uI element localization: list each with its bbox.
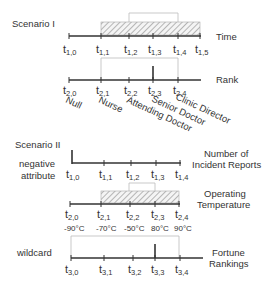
svg-text:t1,2: t1,2 [126, 168, 140, 182]
svg-text:t1,4: t1,4 [175, 168, 189, 182]
rank-axis-label: Rank [216, 74, 238, 85]
svg-text:t1,5: t1,5 [195, 43, 209, 57]
fortune-axis-label-1: Fortune [212, 247, 245, 258]
temperature-axis-label-1: Operating [204, 188, 246, 199]
svg-text:-70°C: -70°C [96, 224, 117, 233]
fortune-axis-label-2: Rankings [209, 258, 249, 269]
rank-categories: Null Nurse Attending Doctor Senior Docto… [64, 91, 232, 134]
svg-text:t1,1: t1,1 [99, 168, 113, 182]
svg-text:t3,2: t3,2 [128, 263, 142, 277]
svg-text:t2,1: t2,1 [97, 208, 111, 222]
svg-text:t3,3: t3,3 [151, 263, 165, 277]
svg-text:t2,0: t2,0 [65, 208, 79, 222]
svg-text:t1,2: t1,2 [124, 43, 138, 57]
negative-label: negative [19, 158, 55, 169]
wildcard-label: wildcard [16, 247, 52, 258]
temperature-axis-label-2: Temperature [197, 199, 250, 210]
temperature-ticks: t2,0 t2,1 t2,2 t2,3 t2,4 [65, 208, 189, 222]
attribute-label: attribute [21, 170, 55, 181]
rank-ticks: t2,0 t2,1 t2,2 t2,3 t2,4 [63, 84, 187, 98]
scenario-1-title: Scenario I [12, 18, 55, 29]
scenario-2-title: Scenario II [15, 139, 60, 150]
svg-text:t3,1: t3,1 [99, 263, 113, 277]
svg-text:t1,4: t1,4 [173, 43, 187, 57]
svg-text:t2,2: t2,2 [126, 208, 140, 222]
svg-text:t2,3: t2,3 [151, 208, 165, 222]
svg-text:t1,0: t1,0 [63, 43, 77, 57]
svg-text:t1,0: t1,0 [66, 168, 80, 182]
incident-axis-label-1: Number of [204, 148, 249, 159]
fortune-ticks: t3,0 t3,1 t3,2 t3,3 t3,4 [65, 263, 189, 277]
hatched-range-time [101, 22, 200, 35]
time-ticks: t1,0 t1,1 t1,2 t1,3 t1,4 t1,5 [63, 43, 209, 57]
svg-text:t1,3: t1,3 [148, 43, 162, 57]
svg-text:t3,4: t3,4 [175, 263, 189, 277]
svg-text:t1,1: t1,1 [96, 43, 110, 57]
hatched-range-temp [101, 191, 179, 203]
svg-text:t3,0: t3,0 [65, 263, 79, 277]
svg-text:Nurse: Nurse [97, 94, 125, 115]
svg-text:-90°C: -90°C [64, 224, 85, 233]
range-box-temp [129, 183, 155, 191]
time-axis-label: Time [216, 31, 237, 42]
svg-text:Null: Null [64, 94, 83, 111]
svg-text:-50°C: -50°C [124, 224, 145, 233]
svg-text:t1,3: t1,3 [151, 168, 165, 182]
range-box-wildcard [71, 236, 179, 258]
diagram: Scenario I Time t1,0 t1,1 t1,2 t1,3 t1,4… [0, 0, 275, 290]
range-box-rank [101, 58, 178, 80]
svg-text:t2,4: t2,4 [175, 208, 189, 222]
incident-axis-label-2: Incident Reports [192, 159, 261, 170]
svg-text:90°C: 90°C [174, 224, 192, 233]
incident-ticks: t1,0 t1,1 t1,2 t1,3 t1,4 [66, 168, 189, 182]
svg-text:80°C: 80°C [151, 224, 169, 233]
temperature-values: -90°C -70°C -50°C 80°C 90°C [64, 224, 192, 233]
